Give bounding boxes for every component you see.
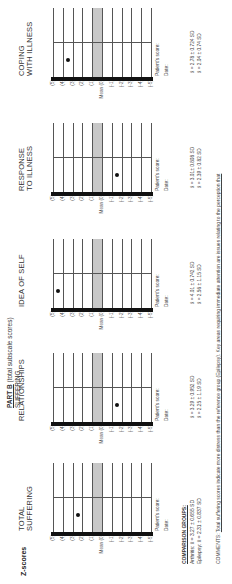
scale-label: (2) — [79, 425, 84, 451]
scale-line — [92, 8, 93, 78]
scale-label: (-5) — [148, 311, 153, 337]
scale-label: (2) — [79, 311, 84, 337]
scale-line — [53, 123, 54, 193]
scale-label: (-3) — [128, 425, 133, 451]
scale-line — [151, 239, 152, 309]
stat-epilepsy: x̄ = 2.56 ± 1.15 SD — [197, 264, 202, 304]
scale-label: (1) — [89, 80, 94, 106]
mean-band — [92, 463, 102, 533]
zscores-label: Z-scores — [20, 547, 27, 576]
scale-label: (-5) — [148, 80, 153, 106]
scale-label: Mean (0) — [99, 425, 104, 451]
axis-bar — [51, 192, 153, 196]
scale-line — [82, 123, 83, 193]
scale-line — [141, 353, 142, 423]
scale-line — [102, 8, 103, 78]
scale-label: (1) — [89, 425, 94, 451]
scale-line — [92, 353, 93, 423]
scale-label: (-2) — [119, 311, 124, 337]
scale-line — [82, 353, 83, 423]
patient-score-label: Patient's score: — [155, 498, 160, 531]
scale-line — [82, 239, 83, 309]
scale-line — [131, 463, 132, 533]
scale-line — [53, 239, 54, 309]
patient-score-dot — [56, 289, 60, 293]
scale-label: (-3) — [128, 195, 133, 221]
scale-line — [122, 463, 123, 533]
scale-line — [92, 239, 93, 309]
scale-label: Mean (0) — [99, 80, 104, 106]
scale-label: (-4) — [138, 535, 143, 561]
comments-block: COMMENTS: Total suffering scores indicat… — [215, 174, 221, 564]
scale-label: (5) — [50, 80, 55, 106]
scale-line — [122, 123, 123, 193]
axis-bar — [51, 308, 153, 312]
score-divider — [53, 157, 151, 158]
scale-label: (-5) — [148, 195, 153, 221]
score-divider — [53, 387, 151, 388]
chart-title: RELATIONSHIPS — [18, 359, 26, 421]
scale-label: (-2) — [119, 425, 124, 451]
axis-bar — [51, 422, 153, 426]
patient-score-label: Patient's score: — [155, 158, 160, 191]
scale-line — [102, 353, 103, 423]
date-label: Date: — [164, 180, 169, 191]
scale-line — [92, 123, 93, 193]
scale-label: (4) — [60, 80, 65, 106]
score-divider — [53, 497, 151, 498]
stat-epilepsy: x̄ = 2.25 ± 1.19 SD — [197, 378, 202, 418]
mean-band — [92, 8, 102, 78]
scale-line — [63, 353, 64, 423]
stat-arthritis: x̄ = 4.01 ± 0.742 SD — [190, 262, 195, 305]
stat-epilepsy: x̄ = 2.39 ± 0.82 SD — [197, 148, 202, 188]
chart-title: TOTALSUFFERING — [18, 486, 34, 531]
rotated-document-page: Z-scores PART B (total subscale scores) … — [0, 0, 232, 584]
scale-line — [92, 463, 93, 533]
part-label: PART B — [6, 384, 13, 408]
scale-line — [131, 239, 132, 309]
part-heading: PART B (total subscale scores) — [6, 317, 13, 408]
scale-line — [73, 123, 74, 193]
scale-label: (2) — [79, 195, 84, 221]
score-divider — [53, 42, 151, 43]
scale-line — [151, 8, 152, 78]
scale-line — [82, 463, 83, 533]
scale-line — [122, 239, 123, 309]
scale-line — [102, 463, 103, 533]
stat-arthritis: x̄ = 3.01± 0.808 SD — [190, 147, 195, 188]
scale-label: (4) — [60, 311, 65, 337]
scale-label: Mean (0) — [99, 535, 104, 561]
scale-label: (4) — [60, 425, 65, 451]
chart-title: RESPONSETO ILLNESS — [18, 146, 34, 191]
scale-line — [131, 123, 132, 193]
scale-line — [73, 353, 74, 423]
scale-line — [63, 123, 64, 193]
scale-line — [141, 123, 142, 193]
scale-label: (-1) — [109, 80, 114, 106]
scale-label: (1) — [89, 195, 94, 221]
scale-label: (1) — [89, 311, 94, 337]
scale-label: (5) — [50, 535, 55, 561]
scale-label: (-1) — [109, 195, 114, 221]
patient-score-dot — [76, 513, 80, 517]
stat-epilepsy: x̄ = 2.04 ± 0.74 SD — [197, 33, 202, 73]
scale-label: (5) — [50, 425, 55, 451]
scale-label: (3) — [70, 311, 75, 337]
scale-label: (-1) — [109, 425, 114, 451]
scale-label: (5) — [50, 311, 55, 337]
scale-line — [131, 8, 132, 78]
scale-line — [112, 353, 113, 423]
part-note: (total subscale scores) — [6, 317, 13, 382]
scale-label: (-4) — [138, 425, 143, 451]
score-divider — [53, 273, 151, 274]
scale-line — [112, 239, 113, 309]
scale-label: (-1) — [109, 535, 114, 561]
scale-label: Mean (0) — [99, 311, 104, 337]
scale-line — [131, 353, 132, 423]
scale-label: Mean (0) — [99, 195, 104, 221]
comments-text: Total suffering scores indicate more dis… — [215, 174, 221, 532]
scale-line — [151, 123, 152, 193]
scale-label: (-2) — [119, 195, 124, 221]
chart-title: COPINGWITH ILLNESS — [18, 22, 34, 77]
scale-label: (3) — [70, 535, 75, 561]
